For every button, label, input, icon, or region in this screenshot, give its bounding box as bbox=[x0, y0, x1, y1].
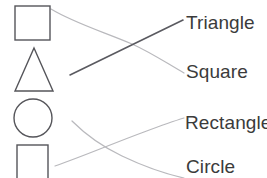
connector-line-square[interactable] bbox=[51, 9, 184, 73]
connector-line-circle[interactable] bbox=[72, 121, 184, 178]
connector-line-triangle[interactable] bbox=[70, 20, 183, 75]
shape-matching-worksheet: Triangle Square Rectangle Circle bbox=[0, 0, 267, 178]
label-circle[interactable]: Circle bbox=[186, 157, 235, 176]
circle-shape[interactable] bbox=[14, 99, 52, 137]
rectangle-shape[interactable] bbox=[17, 145, 48, 178]
connector-lines-group bbox=[51, 9, 184, 178]
connector-line-rectangle[interactable] bbox=[55, 118, 184, 166]
label-square[interactable]: Square bbox=[186, 62, 248, 81]
square-shape[interactable] bbox=[15, 6, 50, 40]
shapes-group bbox=[14, 6, 53, 178]
triangle-shape[interactable] bbox=[15, 48, 53, 91]
label-rectangle[interactable]: Rectangle bbox=[185, 113, 267, 132]
label-triangle[interactable]: Triangle bbox=[186, 13, 255, 32]
